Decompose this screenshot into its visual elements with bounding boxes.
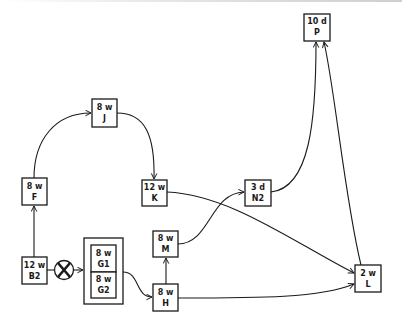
node-m-name: M <box>162 245 170 254</box>
edge-f-j <box>34 113 91 178</box>
node-b2-duration: 12 w <box>24 261 46 270</box>
node-l-duration: 2 w <box>360 269 376 278</box>
node-k-name: K <box>151 194 158 203</box>
node-g1-name: G1 <box>97 260 110 269</box>
node-m-duration: 8 w <box>158 234 174 243</box>
edge-h-l <box>178 284 354 298</box>
node-l-name: L <box>365 280 370 289</box>
node-g1[interactable]: 8 w G1 <box>91 245 116 272</box>
node-h[interactable]: 8 w H <box>153 284 178 311</box>
group-g[interactable]: 8 w G1 8 w G2 <box>84 238 123 304</box>
node-k-duration: 12 w <box>144 183 166 192</box>
node-f-duration: 8 w <box>27 182 43 191</box>
edge-m-n2 <box>178 192 244 244</box>
node-g2-name: G2 <box>97 286 109 295</box>
node-j-name: J <box>102 114 106 123</box>
node-n2-duration: 3 d <box>251 183 265 192</box>
node-j-duration: 8 w <box>97 103 113 112</box>
node-b2[interactable]: 12 w B2 <box>22 257 47 284</box>
edge-j-k <box>117 113 154 179</box>
node-b2-name: B2 <box>29 272 41 281</box>
node-p-name: P <box>314 28 320 37</box>
node-g2-duration: 8 w <box>96 275 112 284</box>
node-p[interactable]: 10 d P <box>304 14 330 41</box>
node-h-name: H <box>162 299 169 308</box>
node-l[interactable]: 2 w L <box>355 265 381 292</box>
node-k[interactable]: 12 w K <box>142 180 167 206</box>
node-g1-duration: 8 w <box>96 249 112 258</box>
node-g2[interactable]: 8 w G2 <box>91 272 116 298</box>
edges <box>34 42 361 298</box>
node-m[interactable]: 8 w M <box>153 231 178 257</box>
junction-x[interactable] <box>55 261 74 280</box>
node-f-name: F <box>32 193 37 202</box>
node-j[interactable]: 8 w J <box>92 99 117 127</box>
edge-l-p <box>324 42 361 265</box>
node-f[interactable]: 8 w F <box>22 178 47 205</box>
node-p-duration: 10 d <box>307 17 327 26</box>
edge-n2-p <box>271 42 316 192</box>
node-n2-name: N2 <box>252 194 264 203</box>
node-h-duration: 8 w <box>158 288 174 297</box>
node-n2[interactable]: 3 d N2 <box>245 180 271 206</box>
edge-g-h <box>123 272 152 297</box>
flow-diagram: 10 d P 8 w J 8 w F 12 w K 3 d N2 8 w M 1… <box>0 0 402 332</box>
